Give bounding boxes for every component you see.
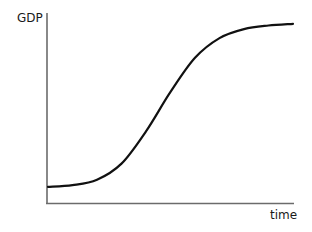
s-curve-chart — [0, 0, 312, 232]
y-axis-label: GDP — [17, 12, 43, 24]
gdp-curve — [48, 24, 293, 187]
x-axis-label: time — [270, 209, 297, 221]
